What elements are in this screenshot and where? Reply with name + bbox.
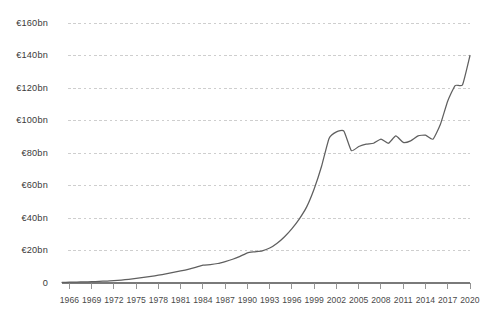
- x-axis-tick-label: 1993: [260, 295, 280, 305]
- x-axis-tick-label: 2005: [349, 295, 369, 305]
- series-line-value: [62, 56, 470, 283]
- chart-canvas: €160bn€140bn€120bn€100bn€80bn€60bn€40bn€…: [0, 0, 496, 328]
- y-axis-tick-label: 0: [43, 278, 48, 288]
- line-chart: €160bn€140bn€120bn€100bn€80bn€60bn€40bn€…: [0, 0, 496, 328]
- y-axis-labels: €160bn€140bn€120bn€100bn€80bn€60bn€40bn€…: [16, 18, 48, 288]
- y-axis-tick-label: €60bn: [21, 180, 48, 190]
- x-axis-tick-label: 2002: [327, 295, 347, 305]
- x-axis-ticks: [69, 283, 470, 289]
- gridlines: [68, 23, 470, 251]
- x-axis-tick-label: 2017: [438, 295, 458, 305]
- x-axis-labels: 1966196919721975197819811984198719901993…: [60, 295, 480, 305]
- y-axis-tick-label: €20bn: [21, 245, 48, 255]
- x-axis-tick-label: 2011: [394, 295, 413, 305]
- x-axis-tick-label: 1966: [60, 295, 80, 305]
- x-axis-tick-label: 1987: [215, 295, 235, 305]
- data-series-group: [62, 56, 470, 283]
- x-axis-tick-label: 1990: [238, 295, 258, 305]
- y-axis-tick-label: €40bn: [21, 213, 48, 223]
- y-axis-tick-label: €140bn: [16, 50, 48, 60]
- y-axis-tick-label: €80bn: [21, 148, 48, 158]
- x-axis-tick-label: 2008: [371, 295, 391, 305]
- y-axis-tick-label: €120bn: [16, 83, 48, 93]
- x-axis-tick-label: 1999: [304, 295, 324, 305]
- x-axis-tick-label: 2020: [460, 295, 480, 305]
- x-axis-tick-label: 1996: [282, 295, 302, 305]
- x-axis-tick-label: 1969: [82, 295, 102, 305]
- y-axis-tick-label: €160bn: [16, 18, 48, 28]
- x-axis-tick-label: 1984: [193, 295, 213, 305]
- x-axis-tick-label: 1975: [126, 295, 146, 305]
- y-axis-tick-label: €100bn: [16, 115, 48, 125]
- x-axis-tick-label: 2014: [416, 295, 436, 305]
- x-axis-tick-label: 1972: [104, 295, 124, 305]
- x-axis-tick-label: 1981: [171, 295, 191, 305]
- x-axis-tick-label: 1978: [149, 295, 169, 305]
